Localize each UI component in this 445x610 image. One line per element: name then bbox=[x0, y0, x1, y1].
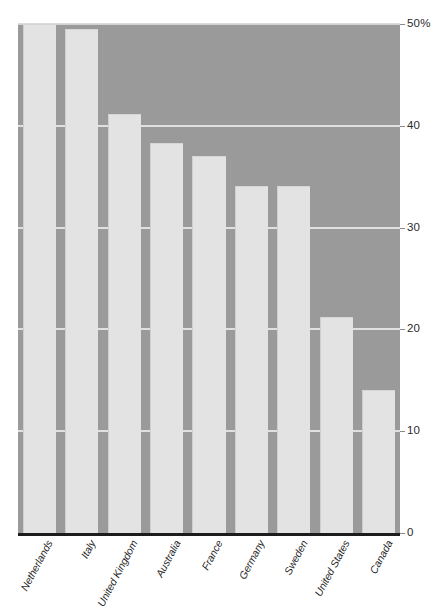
x-tick-label: United States bbox=[312, 538, 352, 598]
x-tick-label: Australia bbox=[153, 538, 182, 579]
y-tick-label: 10 bbox=[407, 425, 420, 437]
y-tick-mark bbox=[400, 533, 405, 534]
x-tick-label: United Kingdom bbox=[95, 538, 140, 608]
bar[interactable] bbox=[108, 114, 141, 533]
y-tick-mark bbox=[400, 24, 405, 25]
bar[interactable] bbox=[150, 143, 183, 533]
y-tick-mark bbox=[400, 126, 405, 127]
x-tick-label: Canada bbox=[367, 538, 395, 576]
x-tick-label: France bbox=[199, 538, 225, 572]
bar[interactable] bbox=[277, 186, 310, 533]
bar[interactable] bbox=[192, 156, 225, 533]
y-axis-tick-labels: 50%403020100 bbox=[400, 24, 445, 536]
y-tick-mark bbox=[400, 228, 405, 229]
bar[interactable] bbox=[65, 29, 98, 533]
plot-area bbox=[18, 24, 400, 533]
bar[interactable] bbox=[23, 24, 56, 533]
bars-layer bbox=[18, 24, 400, 533]
y-tick-label: 30 bbox=[407, 222, 420, 234]
y-tick-mark bbox=[400, 431, 405, 432]
y-tick-label: 40 bbox=[407, 120, 420, 132]
x-axis-category-labels: NetherlandsItalyUnited KingdomAustraliaF… bbox=[0, 536, 445, 610]
bar-chart: 50%403020100 NetherlandsItalyUnited King… bbox=[0, 0, 445, 610]
y-tick-label: 20 bbox=[407, 323, 420, 335]
y-tick-mark bbox=[400, 329, 405, 330]
x-tick-label: Germany bbox=[236, 538, 267, 581]
x-tick-label: Sweden bbox=[281, 538, 309, 577]
bar[interactable] bbox=[362, 390, 395, 533]
bar[interactable] bbox=[320, 317, 353, 533]
x-tick-label: Netherlands bbox=[18, 538, 55, 593]
x-tick-label: Italy bbox=[78, 538, 97, 560]
bar[interactable] bbox=[235, 186, 268, 533]
y-tick-label: 50% bbox=[407, 18, 431, 30]
